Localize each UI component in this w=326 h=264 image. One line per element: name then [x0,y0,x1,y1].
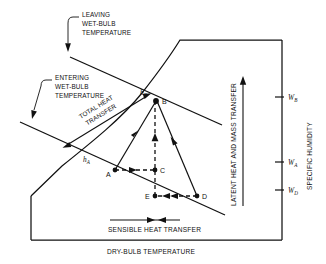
process-line-D-to-B [157,101,197,196]
dry-bulb-temperature-label: DRY-BULB TEMPERATURE [107,248,195,255]
point-C [153,168,158,173]
tick-label-WB: WB [288,93,297,103]
specific-humidity-label: SPECIFIC HUMIDITY [306,122,313,190]
sensible-heat-transfer-label: SENSIBLE HEAT TRANSFER [108,226,201,233]
arrowhead-E-to-B [152,133,159,141]
entering-wet-bulb-line [20,122,225,215]
chart-canvas: WB WA WD LEAVING WET-BULB TEMPERATURE EN… [0,0,326,264]
latent-heat-mass-transfer-label: LATENT HEAT AND MASS TRANSFER [230,83,237,206]
point-A [113,168,118,173]
point-label-B: B [162,98,167,105]
enthalpy-label-hB: hB [140,88,147,98]
entering-wet-bulb-label-line3: TEMPERATURE [55,92,104,99]
point-label-C: C [160,167,165,174]
leaving-wet-bulb-label-line1: LEAVING [82,11,110,18]
total-heat-transfer-label: TOTAL HEAT TRANSFER [78,94,119,128]
point-D [195,194,200,199]
arrowhead-A-to-C [129,167,137,173]
wet-bulb-lines [20,57,225,215]
entering-wet-bulb-arrowhead [31,110,37,119]
entering-wet-bulb-label-line2: WET-BULB [55,83,89,90]
latent-heat-arrowhead [240,76,246,85]
point-label-D: D [202,193,207,200]
leaving-wet-bulb-label-line2: WET-BULB [82,20,116,27]
psychrometric-chart: WB WA WD LEAVING WET-BULB TEMPERATURE EN… [0,0,326,264]
arrowhead-D-to-B [171,137,178,146]
entering-wet-bulb-leader [34,80,52,110]
leaving-wet-bulb-label-line3: TEMPERATURE [82,29,131,36]
sensible-arrowhead-left [158,217,166,223]
tick-label-WA: WA [288,158,298,168]
sensible-arrowhead-right [147,217,155,223]
specific-humidity-ticks [275,97,284,190]
enthalpy-label-hA: hA [83,155,91,165]
arrowhead-to-E [162,193,170,199]
arrowhead-D-to-E [170,193,178,199]
leaving-wet-bulb-leader [68,17,79,43]
point-B [153,98,159,104]
point-E [153,194,158,199]
tick-label-WD: WD [288,186,298,196]
point-label-E: E [145,193,150,200]
leaving-wet-bulb-arrowhead [65,43,71,52]
point-label-A: A [106,171,111,178]
entering-wet-bulb-label-line1: ENTERING [55,74,89,81]
